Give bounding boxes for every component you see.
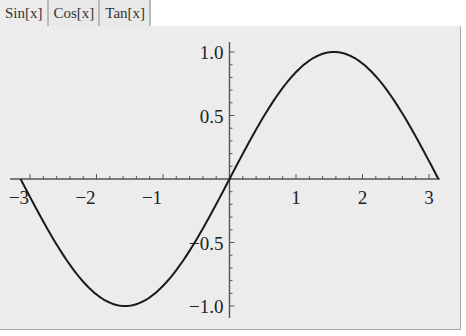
y-tick-label: 1.0	[200, 42, 224, 63]
sin-plot: −3−2−11231.00.5−0.5−1.0	[0, 0, 466, 336]
x-tick-label: −2	[75, 187, 95, 208]
x-tick-label: −3	[9, 187, 29, 208]
plot-axes	[10, 42, 440, 318]
y-tick-label: −0.5	[189, 233, 223, 254]
x-tick-label: 1	[291, 187, 301, 208]
x-tick-label: 2	[358, 187, 368, 208]
x-tick-label: 3	[424, 187, 434, 208]
y-tick-label: 0.5	[200, 106, 224, 127]
x-tick-label: −1	[142, 187, 162, 208]
y-tick-label: −1.0	[189, 296, 223, 317]
